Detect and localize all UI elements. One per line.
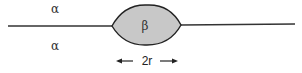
dimension-arrow: 2r: [116, 54, 178, 68]
dimension-label: 2r: [142, 54, 153, 68]
diagram-canvas: α α β 2r: [0, 0, 302, 73]
lens-boundary-diagram: α α β 2r: [0, 0, 302, 73]
alpha-label-bottom: α: [51, 39, 59, 53]
alpha-label-top: α: [51, 2, 59, 16]
beta-label: β: [142, 19, 149, 33]
boundary-line-right: [181, 24, 295, 25]
arrow-right-head-icon: [172, 59, 178, 64]
arrow-left-head-icon: [116, 59, 122, 64]
